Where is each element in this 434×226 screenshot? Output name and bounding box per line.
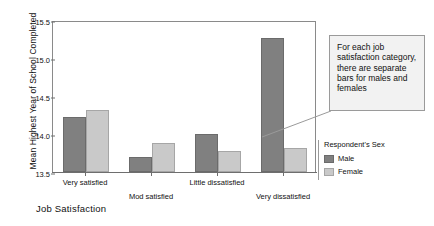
plot-area: 13.514.014.515.015.5 xyxy=(52,21,316,173)
x-tick-label: Little dissatisfied xyxy=(189,178,244,187)
legend-label-female: Female xyxy=(338,167,363,176)
legend-swatch-female-icon xyxy=(324,168,334,176)
x-tick-mark xyxy=(217,172,218,176)
y-axis-title: Mean Highest Year of School Completed xyxy=(28,11,38,171)
legend-label-male: Male xyxy=(338,154,354,163)
y-tick-mark xyxy=(51,174,55,175)
legend-swatch-male-icon xyxy=(324,155,334,163)
bar-male[interactable] xyxy=(63,117,86,172)
x-tick-label: Very dissatisfied xyxy=(256,192,310,201)
x-axis-line xyxy=(52,172,317,173)
x-tick-label: Mod satisfied xyxy=(129,192,173,201)
y-tick-label: 15.0 xyxy=(35,56,50,65)
x-tick-label: Very satisfied xyxy=(63,178,108,187)
bar-female[interactable] xyxy=(86,110,109,172)
x-tick-mark xyxy=(85,172,86,176)
y-tick-mark xyxy=(51,98,55,99)
bar-female[interactable] xyxy=(218,151,241,172)
legend: Respondent's Sex Male Female xyxy=(318,140,430,180)
callout-box: For each job satisfaction category, ther… xyxy=(329,35,425,111)
x-tick-mark xyxy=(283,172,284,176)
y-tick-mark xyxy=(51,60,55,61)
bar-chart: Mean Highest Year of School Completed 13… xyxy=(0,0,434,226)
legend-item-female[interactable]: Female xyxy=(324,167,430,176)
cropped-top-text xyxy=(28,0,30,5)
y-tick-label: 14.5 xyxy=(35,94,50,103)
x-axis-title: Job Satisfaction xyxy=(36,203,106,214)
y-tick-label: 15.5 xyxy=(35,18,50,27)
legend-title: Respondent's Sex xyxy=(324,140,430,149)
y-tick-label: 14.0 xyxy=(35,132,50,141)
legend-item-male[interactable]: Male xyxy=(324,154,430,163)
y-tick-mark xyxy=(51,22,55,23)
bar-male[interactable] xyxy=(195,134,218,172)
bar-male[interactable] xyxy=(261,38,284,172)
bar-female[interactable] xyxy=(284,148,307,172)
bar-female[interactable] xyxy=(152,143,175,172)
x-tick-mark xyxy=(151,172,152,176)
y-tick-mark xyxy=(51,136,55,137)
bar-male[interactable] xyxy=(129,157,152,172)
y-tick-label: 13.5 xyxy=(35,170,50,179)
